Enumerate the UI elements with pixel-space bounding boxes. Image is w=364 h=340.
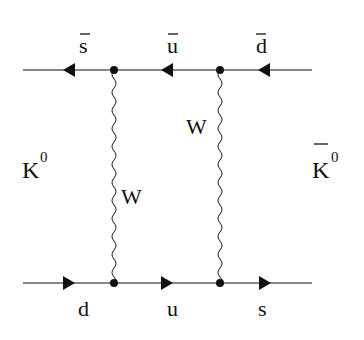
svg-text:u: u (167, 33, 178, 58)
svg-text:K: K (22, 157, 40, 183)
label-w-boson-right: W (186, 114, 207, 139)
label-bottom-quark-2: u (167, 296, 178, 321)
feynman-box-diagram: s u d d u s W W K 0 K 0 (0, 0, 364, 340)
bottom-quark-line (23, 276, 312, 290)
label-final-antikaon: K 0 (312, 144, 339, 183)
svg-text:K: K (312, 157, 330, 183)
arrow-right-icon (63, 276, 75, 290)
w-boson-right-propagator (218, 70, 222, 283)
arrow-right-icon (161, 276, 173, 290)
label-w-boson-left: W (121, 184, 142, 209)
arrow-left-icon (258, 63, 270, 77)
label-bottom-quark-1: d (78, 296, 89, 321)
label-top-quark-2: u (167, 33, 178, 58)
svg-text:0: 0 (331, 149, 339, 165)
label-top-quark-1: s (79, 33, 90, 58)
label-bottom-quark-3: s (258, 296, 267, 321)
arrow-right-icon (259, 276, 271, 290)
label-top-quark-3: d (256, 33, 267, 58)
arrow-left-icon (161, 63, 173, 77)
svg-text:d: d (256, 33, 267, 58)
w-boson-left-propagator (112, 70, 116, 283)
svg-text:s: s (79, 33, 88, 58)
svg-text:0: 0 (40, 149, 48, 165)
label-initial-kaon: K 0 (22, 149, 48, 183)
top-antiquark-line (23, 63, 312, 77)
arrow-left-icon (63, 63, 75, 77)
